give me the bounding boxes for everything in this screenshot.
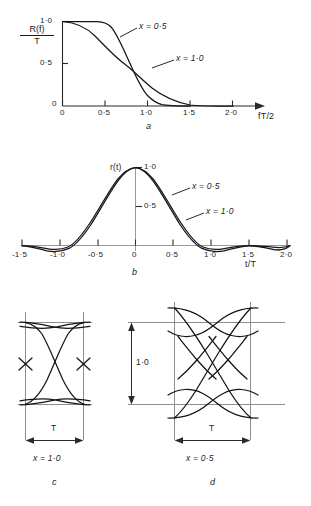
panel-b-letter: b	[132, 268, 137, 277]
panel-b-curve-label-1: x = 0·5	[192, 182, 220, 191]
panel-b: r(t) 1·0 0·5 -1·5 -1·0 -0·5 0 0·5 1·0 1·…	[0, 150, 311, 278]
panel-a: R(f) T 1·0 0·5 0 0 0·5 1·0 1·5 2·0 fT/2 …	[0, 0, 311, 130]
eye-diagrams-plot	[0, 284, 311, 506]
panel-b-ylabel: r(t)	[110, 163, 122, 172]
panel-b-curve-label-2: x = 1·0	[206, 207, 234, 216]
panel-a-ytick-2: 0·5	[40, 59, 52, 67]
panel-a-letter: a	[146, 122, 151, 131]
panel-b-ytick-2: 0·5	[144, 202, 156, 210]
panel-a-xlabel: fT/2	[258, 112, 274, 121]
panel-a-ytick-1: 1·0	[40, 17, 52, 25]
panel-a-ytick-3: 0	[52, 100, 57, 108]
panel-c-letter: c	[52, 478, 57, 487]
panel-a-xtick-1: 0	[60, 109, 65, 117]
panel-a-ylabel-denominator: T	[20, 37, 54, 46]
panel-b-xtick-2: -1·0	[50, 251, 65, 259]
panel-d-letter: d	[210, 478, 215, 487]
panel-b-xtick-7: 1·5	[242, 251, 254, 259]
panel-b-xtick-1: -1·5	[12, 251, 27, 259]
panel-a-xtick-5: 2·0	[225, 109, 237, 117]
eye-diagrams-row: 1·0 T T x = 1·0 x = 0·5 c d	[0, 284, 311, 506]
panel-a-ylabel: R(f) T	[20, 25, 54, 47]
panel-a-xtick-4: 1·5	[183, 109, 195, 117]
panel-a-ylabel-numerator: R(f)	[20, 25, 54, 34]
figure-container: R(f) T 1·0 0·5 0 0 0·5 1·0 1·5 2·0 fT/2 …	[0, 0, 311, 506]
panel-a-xtick-2: 0·5	[98, 109, 110, 117]
panel-a-curve-label-1: x = 0·5	[139, 22, 167, 31]
panel-b-xtick-4: 0	[132, 251, 137, 259]
panel-a-curve-label-2: x = 1·0	[176, 54, 204, 63]
panel-c-condition: x = 1·0	[33, 454, 61, 463]
panel-d-condition: x = 0·5	[186, 454, 214, 463]
panel-c-width-label: T	[51, 424, 56, 433]
panel-b-xtick-6: 1·0	[204, 251, 216, 259]
panel-b-xlabel: t/T	[245, 260, 256, 269]
panel-a-xtick-3: 1·0	[140, 109, 152, 117]
panel-b-xtick-5: 0·5	[166, 251, 178, 259]
panel-b-ytick-1: 1·0	[144, 163, 156, 171]
eye-height-label: 1·0	[136, 358, 149, 367]
panel-d-width-label: T	[209, 424, 214, 433]
panel-b-xtick-8: 2·0	[280, 251, 292, 259]
panel-b-xtick-3: -0·5	[88, 251, 103, 259]
